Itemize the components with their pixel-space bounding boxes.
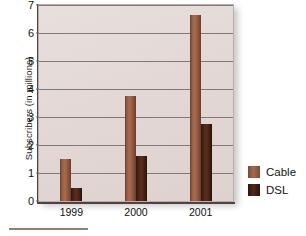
plot-area: 01234567: [38, 4, 234, 202]
y-axis-tick-label: 0: [28, 195, 34, 207]
y-axis-tick-mark: [36, 5, 39, 6]
y-axis-tick-label: 2: [28, 139, 34, 151]
legend-label-dsl: DSL: [266, 184, 288, 196]
y-axis-tick-mark: [36, 89, 39, 90]
bar-dsl-1999: [71, 188, 82, 201]
y-axis-tick-mark: [36, 33, 39, 34]
x-axis-line: [37, 202, 235, 204]
y-axis-tick-label: 1: [28, 167, 34, 179]
y-axis-tick-mark: [36, 201, 39, 202]
footer-divider: [9, 228, 88, 230]
y-axis-tick-mark: [36, 145, 39, 146]
y-axis-tick-label: 7: [28, 0, 34, 11]
legend-swatch-dsl-icon: [248, 184, 260, 196]
y-axis-tick-mark: [36, 117, 39, 118]
x-axis-tick-label: 1999: [60, 206, 83, 218]
bar-cable-1999: [60, 159, 71, 201]
gridline: [39, 61, 233, 62]
x-axis-tick-label: 2001: [189, 206, 212, 218]
y-axis-tick-label: 5: [28, 55, 34, 67]
chart-legend: Cable DSL: [248, 163, 296, 199]
legend-label-cable: Cable: [266, 166, 296, 178]
bar-chart: Subscribers (in millions) 01234567 19992…: [0, 0, 306, 236]
gridline: [39, 89, 233, 90]
gridline: [39, 5, 233, 6]
legend-item-dsl: DSL: [248, 181, 296, 199]
gridline: [39, 33, 233, 34]
bar-cable-2001: [190, 15, 201, 201]
legend-swatch-cable-icon: [248, 166, 260, 178]
x-axis-tick-label: 2000: [124, 206, 147, 218]
y-axis-tick-label: 6: [28, 27, 34, 39]
legend-item-cable: Cable: [248, 163, 296, 181]
bar-dsl-2001: [201, 124, 212, 201]
y-axis-tick-label: 4: [28, 83, 34, 95]
y-axis-tick-label: 3: [28, 111, 34, 123]
bar-dsl-2000: [136, 156, 147, 201]
y-axis-tick-mark: [36, 61, 39, 62]
bar-cable-2000: [125, 96, 136, 201]
gridline: [39, 117, 233, 118]
y-axis-tick-mark: [36, 173, 39, 174]
